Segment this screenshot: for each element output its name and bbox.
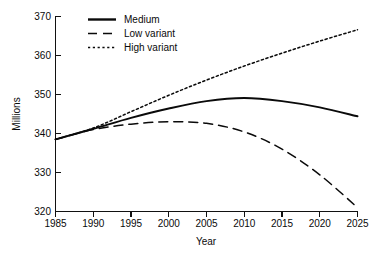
axes-group — [56, 16, 358, 212]
chart-canvas: 320 330 340 350 360 370 1985 1990 1995 2… — [0, 0, 391, 256]
x-tick-marks — [56, 212, 358, 217]
y-axis-title: Millions — [11, 97, 22, 130]
series-group — [56, 30, 358, 208]
x-tick-label-2025: 2025 — [346, 218, 369, 229]
x-tick-label-2015: 2015 — [271, 218, 294, 229]
x-tick-label-1995: 1995 — [120, 218, 143, 229]
legend-label-high-variant: High variant — [124, 42, 178, 53]
x-tick-label-1990: 1990 — [82, 218, 105, 229]
y-tick-label-360: 360 — [34, 50, 51, 61]
legend-label-medium: Medium — [124, 14, 160, 25]
series-line-medium — [56, 98, 358, 139]
y-tick-label-340: 340 — [34, 128, 51, 139]
y-tick-marks — [56, 17, 61, 212]
x-tick-label-2020: 2020 — [309, 218, 332, 229]
y-tick-label-330: 330 — [34, 167, 51, 178]
population-projection-chart: 320 330 340 350 360 370 1985 1990 1995 2… — [0, 0, 391, 256]
series-line-low-variant — [56, 122, 358, 208]
x-tick-label-2000: 2000 — [158, 218, 181, 229]
y-tick-label-320: 320 — [34, 206, 51, 217]
x-tick-label-1985: 1985 — [44, 218, 67, 229]
x-axis-title: Year — [196, 236, 217, 247]
legend-label-low-variant: Low variant — [124, 28, 175, 39]
y-tick-labels: 320 330 340 350 360 370 — [34, 11, 51, 217]
y-tick-label-370: 370 — [34, 11, 51, 22]
legend: Medium Low variant High variant — [88, 14, 178, 53]
x-tick-label-2010: 2010 — [233, 218, 256, 229]
x-tick-label-2005: 2005 — [195, 218, 218, 229]
x-tick-labels: 1985 1990 1995 2000 2005 2010 2015 2020 … — [44, 218, 369, 229]
y-tick-label-350: 350 — [34, 89, 51, 100]
